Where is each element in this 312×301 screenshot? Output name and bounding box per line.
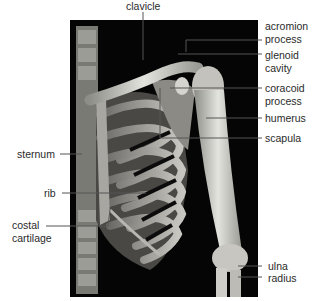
label-ulna: ulna bbox=[268, 260, 288, 272]
label-glenoid-cavity-line1: glenoid bbox=[265, 49, 299, 61]
label-humerus: humerus bbox=[265, 112, 306, 124]
skeleton-illustration bbox=[70, 20, 258, 297]
label-coracoid-process-line2: process bbox=[265, 95, 302, 107]
humerus-shape bbox=[194, 90, 242, 252]
label-costal-cartilage-line2: cartilage bbox=[12, 232, 52, 244]
label-clavicle: clavicle bbox=[126, 0, 160, 12]
label-acromion-process-line2: process bbox=[265, 33, 302, 45]
ulna-shape bbox=[216, 268, 227, 297]
label-radius: radius bbox=[268, 272, 297, 284]
skeleton-image-panel bbox=[70, 20, 258, 297]
label-scapula: scapula bbox=[265, 132, 301, 144]
label-rib: rib bbox=[44, 187, 56, 199]
label-acromion-process-line1: acromion bbox=[265, 20, 308, 32]
label-coracoid-process-line1: coracoid bbox=[265, 82, 305, 94]
label-glenoid-cavity-line2: cavity bbox=[265, 62, 292, 74]
coracoid-shape bbox=[175, 77, 189, 95]
label-sternum: sternum bbox=[17, 148, 55, 160]
label-costal-cartilage-line1: costal bbox=[12, 219, 39, 231]
radius-shape bbox=[230, 270, 241, 297]
